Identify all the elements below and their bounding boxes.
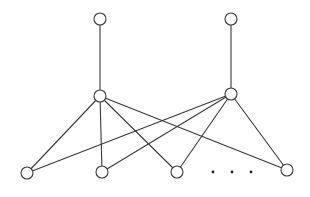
graph-edges (27, 19, 287, 173)
ellipsis-dots (212, 171, 253, 174)
edge-mid-left-bottom-2 (100, 96, 102, 172)
ellipsis-dot-1 (212, 171, 215, 174)
node-top-right (225, 13, 237, 25)
graph-nodes (21, 13, 293, 179)
node-bottom-4 (281, 164, 293, 176)
ellipsis-dot-3 (250, 171, 253, 174)
edge-mid-right-bottom-1 (27, 94, 231, 173)
node-bottom-2 (96, 166, 108, 178)
graph-diagram (0, 0, 310, 197)
node-bottom-1 (21, 167, 33, 179)
edge-mid-left-bottom-4 (100, 96, 287, 170)
edge-mid-right-bottom-3 (177, 94, 231, 172)
ellipsis-dot-2 (231, 171, 234, 174)
node-bottom-3 (171, 166, 183, 178)
node-top-left (94, 13, 106, 25)
node-mid-right (225, 88, 237, 100)
edge-mid-left-bottom-1 (27, 96, 100, 173)
edge-mid-right-bottom-2 (102, 94, 231, 172)
node-mid-left (94, 90, 106, 102)
